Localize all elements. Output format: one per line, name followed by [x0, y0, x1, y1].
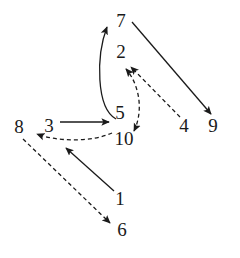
graph-node-9[interactable]: 9 — [208, 116, 218, 135]
edge-8-to-6 — [23, 139, 110, 223]
graph-node-6[interactable]: 6 — [117, 220, 127, 239]
edge-1-to-3 — [66, 148, 114, 191]
graph-node-4[interactable]: 4 — [179, 116, 189, 135]
graph-node-7[interactable]: 7 — [116, 11, 126, 30]
graph-node-2[interactable]: 2 — [116, 42, 126, 61]
edge-7-to-9 — [132, 22, 211, 114]
graph-node-8[interactable]: 8 — [14, 117, 24, 136]
graph-node-1[interactable]: 1 — [115, 189, 125, 208]
edge-5-to-7 — [100, 27, 116, 119]
graph-diagram: 7 2 5 8 3 10 4 9 1 6 — [0, 0, 240, 258]
edge-4-to-2 — [131, 67, 180, 117]
graph-node-10[interactable]: 10 — [115, 129, 134, 148]
edge-10-to-2 — [126, 69, 139, 131]
graph-node-5[interactable]: 5 — [115, 103, 125, 122]
graph-node-3[interactable]: 3 — [44, 116, 54, 135]
